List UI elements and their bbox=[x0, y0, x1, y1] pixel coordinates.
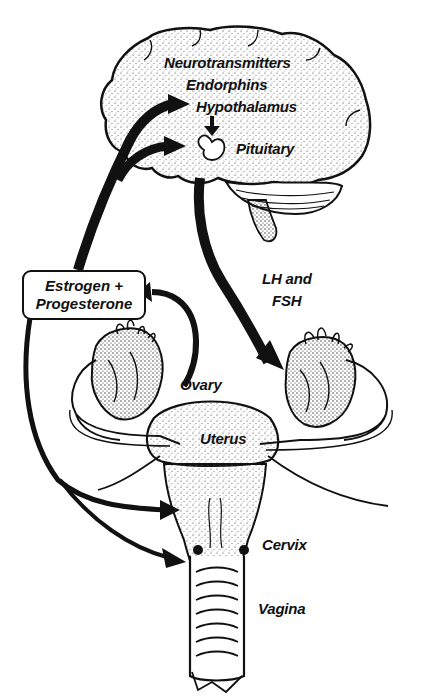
label-cervix: Cervix bbox=[262, 536, 307, 553]
label-vagina: Vagina bbox=[258, 600, 305, 617]
label-progesterone: Progesterone bbox=[36, 295, 133, 313]
left-ovary-illustration bbox=[92, 320, 163, 419]
uterus-illustration bbox=[147, 402, 278, 575]
hormone-box: Estrogen + Progesterone bbox=[22, 270, 146, 320]
label-uterus: Uterus bbox=[200, 430, 246, 447]
label-endorphins: Endorphins bbox=[186, 76, 267, 93]
label-lh-and: LH and bbox=[262, 270, 312, 287]
label-ovary: Ovary bbox=[180, 376, 222, 393]
label-pituitary: Pituitary bbox=[236, 140, 294, 157]
label-hypothalamus: Hypothalamus bbox=[196, 98, 297, 115]
right-ovary-illustration bbox=[286, 328, 356, 427]
vagina-illustration bbox=[190, 545, 249, 692]
label-fsh: FSH bbox=[272, 292, 301, 309]
label-neurotransmitters: Neurotransmitters bbox=[164, 54, 291, 71]
label-estrogen: Estrogen + bbox=[45, 277, 123, 295]
